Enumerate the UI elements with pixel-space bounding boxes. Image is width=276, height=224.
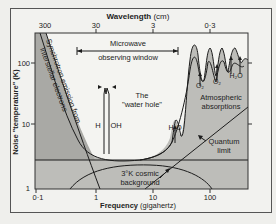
y-axis-title: Noise "temperature" (K) — [11, 69, 20, 155]
oh-label: OH — [110, 121, 121, 130]
wavelength-tick-300: 300 — [39, 21, 52, 30]
cmb-label-2: background — [120, 178, 159, 187]
h-label: H — [95, 121, 100, 130]
wavelength-tick-3: 3 — [151, 21, 155, 30]
water-hole-label-2: "water hole" — [122, 100, 162, 109]
o2-label-1: O₂ — [196, 82, 204, 89]
y-tick-10: 10 — [22, 120, 30, 129]
microwave-window-label: Microwave — [110, 39, 146, 48]
water-hole-label: The — [136, 91, 149, 100]
h2o-low-label: H₂O — [168, 124, 182, 131]
microwave-window-label-2: observing window — [98, 53, 158, 62]
freq-tick-100: 100 — [204, 193, 217, 202]
wavelength-tick-0-3: 0·3 — [205, 21, 216, 30]
y-tick-100: 100 — [17, 59, 30, 68]
quantum-limit-label-2: limit — [217, 146, 231, 155]
cmb-label: 3°K cosmic — [121, 169, 159, 178]
freq-tick-0-1: 0·1 — [33, 193, 44, 202]
quantum-limit-label: Quantum — [209, 137, 240, 146]
o2-label-2: O₂ — [213, 78, 221, 85]
top-axis-title: Wavelength (cm) — [107, 12, 170, 21]
atmospheric-label-2: absorptions — [202, 102, 241, 111]
y-tick-1: 1 — [26, 184, 30, 193]
x-axis-title: Frequency (gigahertz) — [100, 201, 176, 210]
wavelength-tick-30: 30 — [92, 21, 100, 30]
freq-tick-1: 1 — [94, 193, 98, 202]
atmospheric-label: Atmospheric — [200, 93, 242, 102]
noise-temperature-chart: Wavelength (cm) 300 30 3 0·3 0·1 1 10 10… — [0, 0, 276, 224]
h2o-high-label: H₂O — [229, 72, 243, 79]
